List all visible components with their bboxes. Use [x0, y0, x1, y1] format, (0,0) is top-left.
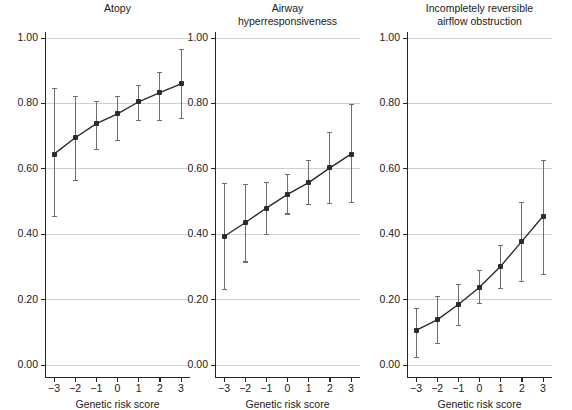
data-point-marker [414, 328, 419, 333]
data-point-marker [456, 302, 461, 307]
data-point-marker [477, 285, 482, 290]
data-point-marker [519, 239, 524, 244]
data-point-marker [541, 214, 546, 219]
series-polyline [416, 216, 543, 330]
data-point-marker [435, 317, 440, 322]
data-point-marker [498, 264, 503, 269]
